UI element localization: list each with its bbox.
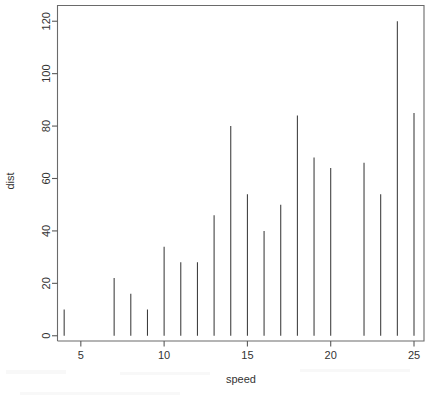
- x-tick-label: 5: [78, 349, 84, 361]
- x-axis-title: speed: [226, 373, 256, 385]
- y-tick-label: 0: [41, 333, 53, 339]
- y-tick-label: 20: [41, 277, 53, 289]
- y-tick-label: 100: [41, 64, 53, 82]
- x-tick-label: 20: [325, 349, 337, 361]
- x-tick-label: 10: [158, 349, 170, 361]
- y-tick-label: 40: [41, 225, 53, 237]
- y-axis-title: dist: [4, 172, 16, 189]
- y-tick-label: 60: [41, 172, 53, 184]
- spike-plot-svg: 020406080100120 510152025 speed dist: [0, 0, 431, 399]
- x-tick-label: 25: [408, 349, 420, 361]
- y-tick-label: 120: [41, 12, 53, 30]
- plot-background: [0, 0, 431, 399]
- y-tick-label: 80: [41, 120, 53, 132]
- x-tick-label: 15: [241, 349, 253, 361]
- chart-figure: 020406080100120 510152025 speed dist: [0, 0, 431, 399]
